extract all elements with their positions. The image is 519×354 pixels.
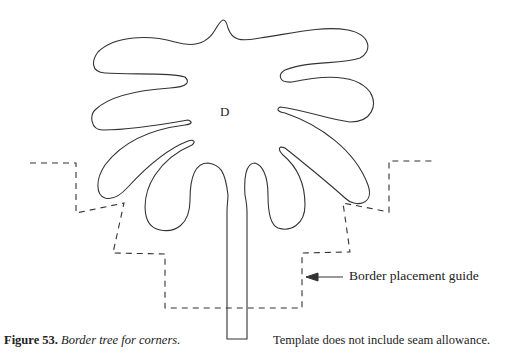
guide-arrow-head xyxy=(306,273,318,281)
guide-label: Border placement guide xyxy=(349,268,479,284)
tree-outline xyxy=(92,20,373,339)
caption-number: Figure 53. xyxy=(4,333,58,347)
border-tree-template xyxy=(0,0,519,354)
seam-allowance-note: Template does not include seam allowance… xyxy=(273,333,490,348)
template-label: D xyxy=(220,104,229,120)
caption-text: Border tree for corners. xyxy=(61,333,180,347)
figure-caption: Figure 53. Border tree for corners. xyxy=(4,333,180,348)
guide-dashed-left xyxy=(30,161,435,308)
